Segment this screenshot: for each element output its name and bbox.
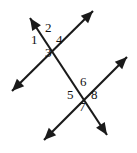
arrowhead-transversal-southeast	[96, 122, 107, 135]
arrowhead-transversal-northwest	[30, 18, 41, 31]
angle-label-6: 6	[80, 75, 87, 88]
angle-label-7: 7	[79, 100, 86, 113]
geometry-figure: 1 2 3 4 5 6 7 8	[0, 0, 137, 153]
angle-label-8: 8	[91, 88, 98, 101]
angle-label-2: 2	[45, 21, 52, 34]
angle-label-3: 3	[45, 46, 52, 59]
angle-label-5: 5	[67, 88, 74, 101]
geometry-diagram-svg	[0, 0, 137, 153]
angle-label-1: 1	[31, 33, 38, 46]
angle-label-4: 4	[56, 33, 63, 46]
